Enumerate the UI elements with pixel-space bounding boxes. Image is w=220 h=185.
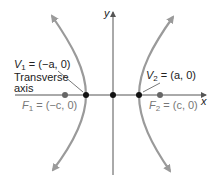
hyperbola-diagram: y x V1 = (−a, 0) Transverse axis V2 = (a…	[0, 0, 220, 185]
transverse-axis-label-line2: axis	[14, 83, 34, 94]
origin-point	[110, 92, 116, 98]
y-axis-label: y	[104, 8, 110, 19]
vertex-2-label: V2 = (a, 0)	[146, 70, 196, 83]
focus-1-point	[62, 92, 68, 98]
left-branch-upper	[52, 16, 86, 95]
focus-1-label: F1 = (−c, 0)	[22, 100, 77, 113]
focus-2-point	[157, 92, 163, 98]
x-axis-label: x	[201, 96, 207, 107]
focus-2-label: F2 = (c, 0)	[149, 100, 198, 113]
right-branch-upper	[139, 17, 173, 95]
v2-pointer	[143, 83, 160, 92]
vertex-2-point	[136, 92, 142, 98]
vertex-1-point	[83, 92, 89, 98]
